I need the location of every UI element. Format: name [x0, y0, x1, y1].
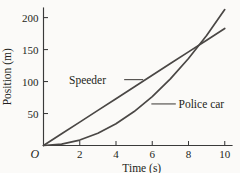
- x-tick-label: 4: [113, 148, 119, 160]
- chart-canvas: 50100150200 246810 O Position (m) Time (…: [0, 0, 240, 173]
- x-tick-label: 6: [150, 148, 156, 160]
- y-tick-label: 100: [22, 76, 39, 88]
- police-car-label: Police car: [179, 98, 225, 110]
- y-tick-label: 150: [22, 44, 39, 56]
- x-axis-tick-labels: 246810: [77, 148, 231, 160]
- y-tick-label: 200: [22, 12, 39, 24]
- y-axis-tick-marks: [44, 18, 49, 114]
- y-axis-tick-labels: 50100150200: [22, 12, 39, 120]
- speeder-label: Speeder: [69, 74, 106, 87]
- origin-label: O: [31, 147, 40, 161]
- y-axis-title: Position (m): [1, 48, 14, 105]
- position-time-chart: 50100150200 246810 O Position (m) Time (…: [0, 0, 240, 173]
- x-tick-label: 8: [186, 148, 192, 160]
- y-tick-label: 50: [28, 108, 40, 120]
- x-axis-title: Time (s): [122, 162, 161, 174]
- x-axis-tick-marks: [80, 141, 225, 146]
- x-tick-label: 10: [219, 148, 231, 160]
- x-tick-label: 2: [77, 148, 83, 160]
